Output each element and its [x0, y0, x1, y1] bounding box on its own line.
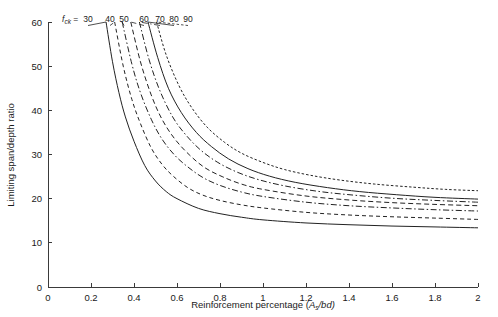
y-axis-tick-labels: 0102030405060 — [31, 17, 42, 293]
chart-page: 00.20.40.60.811.21.41.61.82 010203040506… — [0, 0, 498, 317]
legend-value-80: 80 — [169, 14, 179, 24]
x-axis-ticks — [48, 283, 478, 287]
x-tick-label: 1.8 — [428, 292, 441, 303]
x-tick-label: 0.6 — [170, 292, 183, 303]
limiting-span-depth-ratio-chart: 00.20.40.60.811.21.41.61.82 010203040506… — [0, 0, 498, 317]
curve-fck-80 — [148, 22, 478, 199]
curve-fck-70 — [139, 22, 478, 202]
data-curves — [106, 22, 478, 228]
legend-prefix-label: fck = — [62, 14, 78, 25]
x-tick-label: 0 — [45, 292, 50, 303]
x-tick-label: 0.2 — [84, 292, 97, 303]
y-tick-label: 50 — [31, 61, 42, 72]
y-tick-label: 60 — [31, 17, 42, 28]
x-tick-label: 2 — [475, 292, 480, 303]
x-tick-label: 1.6 — [385, 292, 398, 303]
legend-value-labels: 30405060708090 — [83, 14, 193, 24]
y-tick-label: 20 — [31, 193, 42, 204]
y-tick-label: 0 — [37, 282, 42, 293]
legend-value-30: 30 — [83, 14, 93, 24]
x-tick-label: 0.4 — [127, 292, 140, 303]
curve-fck-90 — [157, 22, 478, 191]
curve-fck-60 — [131, 22, 478, 206]
legend-value-40: 40 — [105, 14, 115, 24]
y-tick-label: 40 — [31, 105, 42, 116]
curve-fck-50 — [122, 22, 478, 211]
fck-legend: fck = 30405060708090 — [62, 14, 193, 26]
y-tick-label: 10 — [31, 237, 42, 248]
y-tick-label: 30 — [31, 149, 42, 160]
legend-value-90: 90 — [183, 14, 193, 24]
axis-titles: Reinforcement percentage (As/bd) Limitin… — [5, 103, 335, 311]
x-tick-label: 1.4 — [342, 292, 355, 303]
y-axis-ticks — [48, 22, 52, 287]
y-axis-title: Limiting span/depth ratio — [5, 103, 16, 207]
curve-fck-40 — [115, 22, 478, 219]
x-axis-title: Reinforcement percentage (As/bd) — [191, 299, 335, 311]
legend-value-50: 50 — [119, 14, 129, 24]
